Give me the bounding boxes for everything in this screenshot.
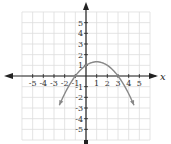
y-tick-label: -2 [75, 93, 83, 102]
x-tick-label: -2 [61, 79, 69, 88]
x-tick-label: -5 [29, 79, 37, 88]
y-tick-label: 3 [78, 40, 83, 49]
y-tick-label: -4 [75, 115, 83, 124]
x-axis-label: x [160, 71, 166, 82]
y-tick-label: 5 [78, 19, 83, 28]
y-tick-label: 2 [78, 51, 83, 60]
x-axis-right-arrow-icon [149, 73, 158, 79]
parabola-chart: -5-4-3-2-11234554321-1-2-3-4-5 x [0, 0, 171, 144]
x-tick-label: 2 [105, 79, 110, 88]
x-axis-left-arrow-icon [4, 73, 13, 79]
y-tick-label: -3 [75, 104, 83, 113]
x-tick-label: 5 [137, 79, 142, 88]
x-tick-label: -3 [50, 79, 58, 88]
x-tick-label: 4 [126, 79, 131, 88]
y-tick-label: -1 [75, 83, 83, 92]
y-tick-label: 4 [78, 29, 83, 38]
x-tick-label: -4 [39, 79, 47, 88]
y-axis-bottom-arrow-icon [84, 140, 88, 144]
y-axis-top-arrow-icon [83, 2, 89, 10]
y-tick-label: -5 [75, 125, 83, 134]
x-tick-label: 3 [115, 79, 120, 88]
x-tick-label: 1 [94, 79, 99, 88]
